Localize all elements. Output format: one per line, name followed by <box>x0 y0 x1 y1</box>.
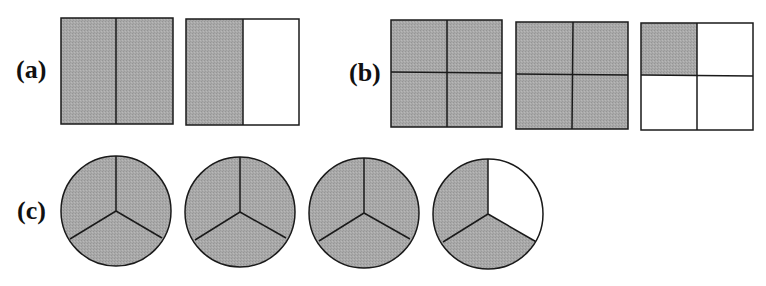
panel-c-circle-2 <box>185 157 295 267</box>
panel-b <box>391 20 753 130</box>
panel-a <box>61 18 299 125</box>
panel-c-circle-3 <box>309 158 419 268</box>
fraction-diagram <box>0 0 766 286</box>
panel-c <box>61 156 543 269</box>
panel-a-square-1 <box>61 18 173 124</box>
panel-b-square-3 <box>641 23 753 130</box>
panel-b-square-1 <box>391 20 502 127</box>
panel-b-square-2 <box>516 22 628 129</box>
panel-a-square-2 <box>186 19 299 125</box>
panel-c-circle-4 <box>433 159 543 269</box>
panel-c-circle-1 <box>61 156 171 266</box>
